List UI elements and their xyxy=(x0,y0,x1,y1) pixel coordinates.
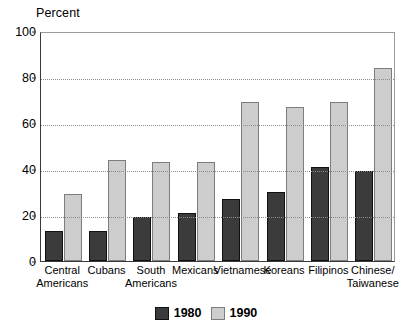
bar-1980-cubans xyxy=(89,231,107,261)
legend-label-1980: 1980 xyxy=(174,306,202,320)
chart-page: Percent 020406080100 Central AmericansCu… xyxy=(0,0,412,336)
gridline xyxy=(41,171,394,172)
bar-1990-mexicans xyxy=(197,162,215,261)
y-tick-mark xyxy=(32,124,36,125)
y-tick-label: 80 xyxy=(2,71,36,85)
y-tick-label: 100 xyxy=(2,25,36,39)
bar-1980-centralamericans xyxy=(45,231,63,261)
y-tick-mark xyxy=(32,170,36,171)
chart-legend: 1980 1990 xyxy=(0,306,412,320)
y-axis-tick-labels: 020406080100 xyxy=(0,32,36,262)
gridline xyxy=(41,125,394,126)
y-tick-mark xyxy=(32,262,36,263)
bars-layer xyxy=(41,33,394,261)
legend-item-1990: 1990 xyxy=(211,306,258,320)
y-tick-label: 20 xyxy=(2,209,36,223)
bar-1980-filipinos xyxy=(311,167,329,261)
plot-area xyxy=(40,32,395,262)
y-tick-label: 40 xyxy=(2,163,36,177)
bar-1990-centralamericans xyxy=(64,194,82,261)
gridline xyxy=(41,217,394,218)
bar-1990-southamericans xyxy=(152,162,170,261)
bar-1980-koreans xyxy=(267,192,285,261)
bar-1980-southamericans xyxy=(133,217,151,261)
legend-swatch-1980-icon xyxy=(155,307,169,320)
gridline xyxy=(41,79,394,80)
bar-1990-chinesetaiwanese xyxy=(374,68,392,261)
bar-1990-koreans xyxy=(286,107,304,261)
y-tick-label: 60 xyxy=(2,117,36,131)
y-tick-mark xyxy=(32,32,36,33)
bar-1980-mexicans xyxy=(178,213,196,261)
legend-item-1980: 1980 xyxy=(155,306,202,320)
x-axis-category-labels: Central AmericansCubansSouth AmericansMe… xyxy=(40,264,395,298)
bar-1990-cubans xyxy=(108,160,126,261)
y-tick-label: 0 xyxy=(2,255,36,269)
y-tick-mark xyxy=(32,78,36,79)
bar-1990-vietnamese xyxy=(241,102,259,261)
y-tick-mark xyxy=(32,216,36,217)
legend-swatch-1990-icon xyxy=(211,307,225,320)
x-category-label: Chinese/ Taiwanese xyxy=(347,264,399,289)
bar-1980-vietnamese xyxy=(222,199,240,261)
bar-1990-filipinos xyxy=(330,102,348,261)
legend-label-1990: 1990 xyxy=(230,306,258,320)
y-axis-title: Percent xyxy=(36,6,80,20)
